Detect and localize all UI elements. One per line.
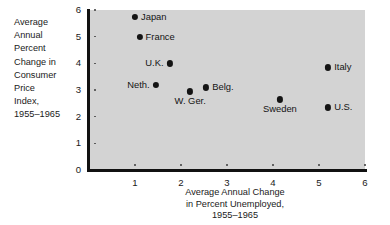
y-tick-mark	[94, 9, 96, 11]
data-point-label: U.S.	[334, 102, 352, 112]
data-point-label: Japan	[141, 12, 167, 22]
data-point-label: France	[146, 32, 175, 42]
data-point-label: Belg.	[212, 82, 233, 92]
x-axis-label-line: 1955–1965	[120, 210, 350, 222]
y-axis-line	[87, 9, 90, 172]
data-point-label: W. Ger.	[175, 96, 206, 106]
scatter-plot-figure: Average Annual Percent Change in Consume…	[0, 0, 390, 225]
y-tick-label: 3	[67, 85, 81, 95]
y-tick-mark	[94, 143, 96, 145]
x-tick-mark	[364, 164, 366, 166]
x-axis-line	[87, 169, 367, 172]
x-axis-label: Average Annual Change in Percent Unemplo…	[120, 187, 350, 222]
y-tick-label: 1	[67, 138, 81, 148]
x-tick-mark	[318, 164, 320, 166]
y-tick-label: 6	[67, 5, 81, 15]
y-tick-label: 4	[67, 58, 81, 68]
x-tick-mark	[134, 164, 136, 166]
y-axis-label-line: Average	[14, 16, 76, 29]
x-axis-label-line: Average Annual Change	[120, 187, 350, 199]
y-axis-label-line: Consumer	[14, 69, 76, 82]
x-tick-mark	[272, 164, 274, 166]
y-tick-label: 0	[67, 165, 81, 175]
x-tick-mark	[226, 164, 228, 166]
data-point-label: Italy	[334, 62, 351, 72]
x-axis-label-line: in Percent Unemployed,	[120, 199, 350, 211]
y-tick-mark	[94, 89, 96, 91]
x-tick-label: 6	[357, 178, 373, 188]
data-point-label: U.K.	[145, 58, 163, 68]
data-point-label: Neth.	[127, 80, 149, 90]
x-tick-mark	[180, 164, 182, 166]
y-tick-mark	[94, 63, 96, 65]
y-axis-label-line: Percent	[14, 42, 76, 55]
y-axis-label-line: Index,	[14, 95, 76, 108]
data-point-label: Sweden	[263, 104, 297, 114]
y-tick-label: 2	[67, 112, 81, 122]
y-tick-label: 5	[67, 32, 81, 42]
